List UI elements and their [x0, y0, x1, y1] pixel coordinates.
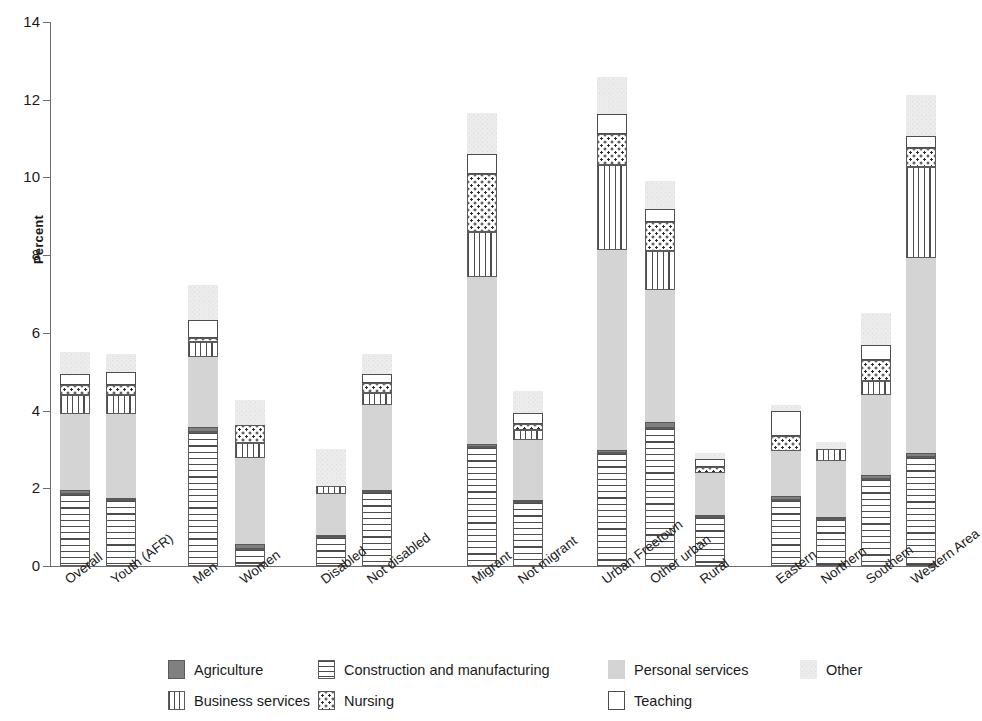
- segment-other[interactable]: [861, 313, 891, 344]
- segment-other[interactable]: [771, 405, 801, 411]
- segment-other[interactable]: [235, 400, 265, 425]
- bar-western-area[interactable]: [906, 22, 936, 566]
- bar-overall[interactable]: [60, 22, 90, 566]
- segment-nursing[interactable]: [645, 222, 675, 251]
- segment-agriculture[interactable]: [816, 517, 846, 519]
- segment-teaching[interactable]: [60, 374, 90, 386]
- segment-construction-and-manufacturing[interactable]: [188, 432, 218, 566]
- segment-other[interactable]: [60, 352, 90, 373]
- segment-construction-and-manufacturing[interactable]: [597, 453, 627, 566]
- segment-nursing[interactable]: [188, 338, 218, 342]
- segment-personal-services[interactable]: [906, 258, 936, 452]
- segment-teaching[interactable]: [362, 374, 392, 384]
- segment-teaching[interactable]: [771, 411, 801, 436]
- bar-not-disabled[interactable]: [362, 22, 392, 566]
- segment-nursing[interactable]: [695, 467, 725, 473]
- segment-business-services[interactable]: [60, 395, 90, 414]
- segment-other[interactable]: [645, 181, 675, 208]
- segment-personal-services[interactable]: [597, 250, 627, 450]
- segment-agriculture[interactable]: [106, 498, 136, 500]
- segment-business-services[interactable]: [467, 232, 497, 277]
- bar-women[interactable]: [235, 22, 265, 566]
- segment-nursing[interactable]: [771, 436, 801, 452]
- segment-other[interactable]: [816, 442, 846, 450]
- segment-personal-services[interactable]: [695, 473, 725, 516]
- legend-item-nursing[interactable]: Nursing: [318, 691, 394, 710]
- segment-personal-services[interactable]: [513, 440, 543, 500]
- legend-item-teaching[interactable]: Teaching: [608, 691, 692, 710]
- segment-business-services[interactable]: [906, 167, 936, 258]
- segment-business-services[interactable]: [188, 342, 218, 358]
- segment-teaching[interactable]: [645, 209, 675, 223]
- bar-urban-freetown[interactable]: [597, 22, 627, 566]
- bar-southern[interactable]: [861, 22, 891, 566]
- segment-agriculture[interactable]: [316, 535, 346, 537]
- bar-rural[interactable]: [695, 22, 725, 566]
- bar-eastern[interactable]: [771, 22, 801, 566]
- segment-business-services[interactable]: [316, 486, 346, 494]
- segment-other[interactable]: [106, 354, 136, 371]
- legend-item-personal-services[interactable]: Personal services: [608, 660, 748, 679]
- segment-business-services[interactable]: [816, 449, 846, 461]
- segment-agriculture[interactable]: [362, 490, 392, 492]
- bar-men[interactable]: [188, 22, 218, 566]
- segment-other[interactable]: [513, 391, 543, 412]
- segment-teaching[interactable]: [597, 114, 627, 133]
- legend-item-business-services[interactable]: Business services: [168, 691, 310, 710]
- segment-business-services[interactable]: [597, 165, 627, 250]
- segment-nursing[interactable]: [906, 148, 936, 167]
- segment-other[interactable]: [906, 95, 936, 136]
- segment-personal-services[interactable]: [235, 458, 265, 543]
- segment-other[interactable]: [695, 453, 725, 459]
- segment-personal-services[interactable]: [467, 277, 497, 444]
- segment-agriculture[interactable]: [513, 500, 543, 502]
- legend-item-construction-and-manufacturing[interactable]: Construction and manufacturing: [318, 660, 550, 679]
- segment-personal-services[interactable]: [861, 395, 891, 475]
- segment-agriculture[interactable]: [861, 475, 891, 479]
- segment-personal-services[interactable]: [106, 414, 136, 498]
- segment-teaching[interactable]: [861, 345, 891, 361]
- segment-teaching[interactable]: [467, 154, 497, 173]
- segment-construction-and-manufacturing[interactable]: [60, 494, 90, 566]
- segment-nursing[interactable]: [362, 383, 392, 393]
- segment-nursing[interactable]: [235, 425, 265, 442]
- segment-other[interactable]: [597, 77, 627, 114]
- segment-other[interactable]: [362, 354, 392, 373]
- bar-migrant[interactable]: [467, 22, 497, 566]
- segment-other[interactable]: [467, 113, 497, 154]
- segment-personal-services[interactable]: [60, 414, 90, 490]
- segment-teaching[interactable]: [906, 136, 936, 148]
- segment-business-services[interactable]: [106, 395, 136, 414]
- segment-nursing[interactable]: [513, 424, 543, 430]
- bar-disabled[interactable]: [316, 22, 346, 566]
- segment-agriculture[interactable]: [695, 515, 725, 517]
- bar-not-migrant[interactable]: [513, 22, 543, 566]
- segment-agriculture[interactable]: [597, 450, 627, 453]
- legend-item-other[interactable]: Other: [800, 660, 862, 679]
- segment-agriculture[interactable]: [645, 422, 675, 428]
- segment-agriculture[interactable]: [235, 544, 265, 549]
- segment-agriculture[interactable]: [188, 427, 218, 432]
- segment-nursing[interactable]: [106, 385, 136, 395]
- bar-northern[interactable]: [816, 22, 846, 566]
- segment-nursing[interactable]: [861, 360, 891, 381]
- segment-teaching[interactable]: [695, 459, 725, 467]
- segment-teaching[interactable]: [188, 320, 218, 337]
- segment-other[interactable]: [316, 449, 346, 486]
- bar-other-urban[interactable]: [645, 22, 675, 566]
- bar-youth-afr[interactable]: [106, 22, 136, 566]
- segment-personal-services[interactable]: [362, 405, 392, 490]
- segment-agriculture[interactable]: [906, 453, 936, 458]
- segment-business-services[interactable]: [861, 381, 891, 395]
- segment-business-services[interactable]: [362, 393, 392, 405]
- segment-nursing[interactable]: [597, 134, 627, 165]
- segment-nursing[interactable]: [60, 385, 90, 395]
- segment-teaching[interactable]: [106, 372, 136, 386]
- segment-personal-services[interactable]: [645, 290, 675, 422]
- segment-agriculture[interactable]: [467, 444, 497, 448]
- segment-personal-services[interactable]: [816, 461, 846, 517]
- segment-personal-services[interactable]: [316, 494, 346, 535]
- segment-agriculture[interactable]: [60, 490, 90, 494]
- segment-other[interactable]: [188, 285, 218, 320]
- segment-business-services[interactable]: [645, 251, 675, 290]
